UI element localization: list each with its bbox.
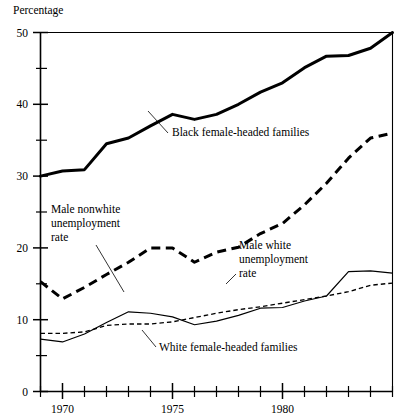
- series-black-female-headed-families: [41, 33, 393, 177]
- leader-black-fhf: [148, 111, 168, 133]
- leader-white-fhf: [142, 330, 156, 347]
- chart-container: Percentage 01020304050 197019751980 Blac…: [0, 0, 402, 420]
- y-tick-label: 10: [17, 314, 29, 326]
- annotation-unemployment: unemployment: [239, 253, 309, 266]
- annotation-unemployment: unemployment: [51, 217, 121, 230]
- x-tick-label: 1975: [161, 403, 184, 415]
- annotation-male-nonwhite: Male nonwhite: [51, 203, 120, 215]
- annotation-male-white: Male white: [239, 239, 291, 251]
- x-axis: 197019751980: [41, 383, 393, 415]
- y-tick-label: 20: [17, 242, 29, 254]
- annotation-white-female-headed-families: White female-headed families: [159, 341, 298, 353]
- y-tick-label: 0: [22, 386, 28, 398]
- line-chart-svg: Percentage 01020304050 197019751980 Blac…: [0, 0, 402, 420]
- annotation-leaders: [96, 111, 236, 347]
- y-tick-label: 40: [17, 98, 29, 110]
- annotation-rate: rate: [51, 231, 68, 243]
- annotation-black-female-headed-families: Black female-headed families: [172, 126, 310, 138]
- series-male-white-unemployment-rate: [41, 283, 393, 333]
- leader-male-white: [226, 274, 236, 284]
- y-tick-label: 50: [17, 27, 29, 39]
- data-series-group: [41, 33, 393, 342]
- x-tick-label: 1970: [51, 403, 74, 415]
- y-tick-label: 30: [17, 170, 29, 182]
- annotation-rate: rate: [239, 267, 256, 279]
- annotation-labels: Black female-headed familiesMale nonwhit…: [51, 126, 310, 353]
- x-tick-label: 1980: [271, 403, 294, 415]
- y-axis-title: Percentage: [13, 4, 63, 17]
- y-axis: 01020304050: [17, 27, 49, 398]
